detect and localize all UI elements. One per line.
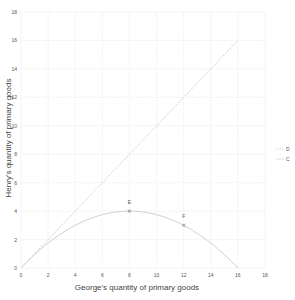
- y-tick-label: 14: [11, 66, 17, 72]
- point-label-f: F: [182, 213, 185, 219]
- y-tick-label: 6: [14, 180, 17, 186]
- y-axis-label: Henry's quantity of primary goods: [4, 79, 13, 198]
- point-label-e: E: [128, 199, 132, 205]
- y-tick-label: 4: [14, 208, 17, 214]
- x-tick-label: 0: [20, 272, 23, 278]
- y-tick-label: 8: [14, 151, 17, 157]
- x-tick-label: 12: [181, 272, 187, 278]
- x-tick-label: 4: [74, 272, 77, 278]
- x-tick-label: 16: [235, 272, 241, 278]
- chart: EF 024681012141618024681012141618 George…: [0, 0, 295, 300]
- x-axis-label: George's quantity of primary goods: [75, 283, 199, 292]
- x-tick-label: 2: [47, 272, 50, 278]
- x-tick-label: 8: [128, 272, 131, 278]
- legend-label-c: C: [286, 156, 290, 162]
- x-tick-label: 14: [208, 272, 214, 278]
- x-tick-label: 6: [101, 272, 104, 278]
- y-tick-label: 18: [11, 9, 17, 15]
- legend: DC: [276, 146, 290, 162]
- x-tick-label: 10: [154, 272, 160, 278]
- y-tick-label: 16: [11, 37, 17, 43]
- legend-label-d: D: [286, 146, 290, 152]
- y-tick-label: 0: [14, 265, 17, 271]
- y-tick-label: 2: [14, 237, 17, 243]
- x-tick-label: 18: [262, 272, 268, 278]
